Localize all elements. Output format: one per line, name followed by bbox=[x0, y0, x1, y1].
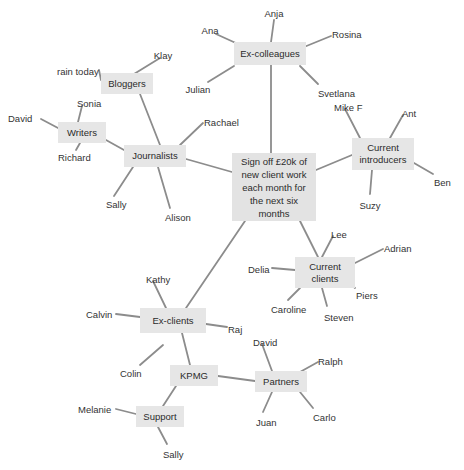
leaf-label-calvin[interactable]: Calvin bbox=[86, 309, 112, 320]
edge-leaf-julian bbox=[208, 66, 234, 82]
edge-leaf-mike-f bbox=[345, 109, 360, 138]
leaf-label-klay[interactable]: Klay bbox=[154, 50, 172, 61]
leaf-label-caroline[interactable]: Caroline bbox=[271, 304, 306, 315]
leaf-label-rachael[interactable]: Rachael bbox=[204, 117, 239, 128]
leaf-label-rain-today[interactable]: rain today bbox=[57, 66, 99, 77]
edge-kpmg-to-support bbox=[163, 386, 176, 406]
leaf-label-ant[interactable]: Ant bbox=[402, 108, 416, 119]
edge-leaf-sally bbox=[114, 167, 133, 196]
leaf-label-julian[interactable]: Julian bbox=[186, 84, 211, 95]
mind-map-canvas: Sign off £20k of new client work each mo… bbox=[0, 0, 464, 470]
leaf-label-ben[interactable]: Ben bbox=[434, 177, 451, 188]
leaf-label-delia[interactable]: Delia bbox=[248, 264, 270, 275]
node-writers[interactable]: Writers bbox=[58, 122, 106, 143]
leaf-label-david[interactable]: David bbox=[253, 337, 277, 348]
node-excolleagues[interactable]: Ex-colleagues bbox=[234, 42, 306, 65]
leaf-label-lee[interactable]: Lee bbox=[331, 229, 347, 240]
node-central[interactable]: Sign off £20k of new client work each mo… bbox=[232, 153, 316, 221]
edge-leaf-ben bbox=[414, 163, 433, 174]
edge-leaf-rosina bbox=[304, 36, 331, 47]
edge-leaf-sally bbox=[158, 427, 167, 444]
leaf-label-alison[interactable]: Alison bbox=[165, 212, 191, 223]
leaf-label-piers[interactable]: Piers bbox=[356, 290, 378, 301]
edge-leaf-raj bbox=[206, 324, 227, 327]
leaf-label-suzy[interactable]: Suzy bbox=[359, 200, 380, 211]
leaf-label-ana[interactable]: Ana bbox=[202, 25, 219, 36]
node-introducers[interactable]: Current introducers bbox=[352, 138, 414, 170]
edge-leaf-steven bbox=[322, 288, 327, 306]
edge-leaf-anja bbox=[271, 20, 274, 42]
edge-central-to-exclients bbox=[186, 221, 245, 308]
edge-leaf-adrian bbox=[355, 249, 383, 263]
edge-kpmg-to-partners bbox=[218, 376, 255, 381]
node-exclients[interactable]: Ex-clients bbox=[140, 308, 206, 333]
edge-leaf-richard bbox=[76, 143, 80, 150]
edge-leaf-juan bbox=[263, 392, 272, 412]
edge-leaf-colin bbox=[140, 345, 163, 365]
edge-journalists-to-writers bbox=[106, 140, 124, 150]
edge-leaf-alison bbox=[158, 167, 170, 208]
edge-leaf-calvin bbox=[116, 314, 140, 317]
edge-leaf-david bbox=[262, 344, 272, 371]
edge-central-to-journalists bbox=[186, 159, 232, 172]
leaf-label-rosina[interactable]: Rosina bbox=[332, 29, 362, 40]
edge-leaf-carlo bbox=[300, 392, 313, 408]
edge-central-to-clients bbox=[300, 221, 318, 257]
leaf-label-david[interactable]: David bbox=[8, 113, 32, 124]
leaf-label-anja[interactable]: Anja bbox=[264, 8, 283, 19]
leaf-label-sally[interactable]: Sally bbox=[106, 199, 127, 210]
leaf-label-adrian[interactable]: Adrian bbox=[384, 243, 411, 254]
edge-journalists-to-bloggers bbox=[140, 94, 160, 145]
leaf-label-juan[interactable]: Juan bbox=[256, 417, 277, 428]
edge-leaf-melanie bbox=[116, 409, 136, 414]
edge-central-to-introducers bbox=[316, 155, 352, 170]
leaf-label-mike-f[interactable]: Mike F bbox=[334, 102, 363, 113]
edge-leaf-caroline bbox=[288, 288, 300, 300]
leaf-label-svetlana[interactable]: Svetlana bbox=[318, 88, 355, 99]
edge-leaf-suzy bbox=[370, 170, 372, 194]
leaf-label-raj[interactable]: Raj bbox=[228, 324, 242, 335]
leaf-label-richard[interactable]: Richard bbox=[58, 152, 91, 163]
node-support[interactable]: Support bbox=[136, 406, 184, 427]
edge-leaf-david bbox=[41, 119, 58, 128]
leaf-label-colin[interactable]: Colin bbox=[120, 368, 142, 379]
leaf-label-sonia[interactable]: Sonia bbox=[77, 98, 101, 109]
leaf-label-carlo[interactable]: Carlo bbox=[313, 412, 336, 423]
leaf-label-melanie[interactable]: Melanie bbox=[78, 404, 111, 415]
leaf-label-kathy[interactable]: Kathy bbox=[146, 274, 170, 285]
edge-leaf-svetlana bbox=[300, 66, 318, 84]
edge-leaf-kathy bbox=[153, 281, 166, 308]
node-kpmg[interactable]: KPMG bbox=[170, 365, 218, 386]
edge-leaf-delia bbox=[272, 268, 295, 270]
leaf-label-steven[interactable]: Steven bbox=[324, 312, 354, 323]
edge-leaf-rachael bbox=[180, 123, 203, 145]
node-clients[interactable]: Current clients bbox=[295, 257, 355, 288]
leaf-label-ralph[interactable]: Ralph bbox=[318, 356, 343, 367]
node-journalists[interactable]: Journalists bbox=[124, 145, 186, 167]
leaf-label-sally[interactable]: Sally bbox=[163, 449, 184, 460]
node-partners[interactable]: Partners bbox=[255, 371, 307, 392]
edge-exclients-to-kpmg bbox=[182, 333, 190, 365]
node-bloggers[interactable]: Bloggers bbox=[101, 73, 153, 94]
